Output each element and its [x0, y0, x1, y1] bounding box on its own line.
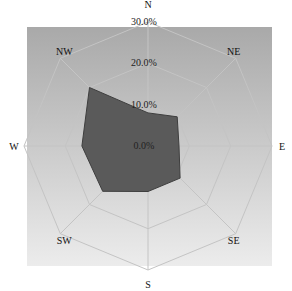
radial-tick-label: 10.0%: [131, 99, 157, 110]
direction-label-nw: NW: [56, 46, 73, 57]
direction-label-n: N: [144, 0, 151, 10]
direction-label-s: S: [145, 279, 151, 290]
wind-rose-chart: 0.0%10.0%20.0%30.0% NNEESESSWWNW: [0, 0, 292, 291]
direction-label-se: SE: [228, 235, 240, 246]
direction-label-sw: SW: [57, 235, 73, 246]
direction-label-w: W: [9, 141, 19, 152]
direction-label-ne: NE: [227, 46, 240, 57]
radial-tick-label: 0.0%: [134, 140, 155, 151]
radial-tick-label: 30.0%: [131, 16, 157, 27]
direction-label-e: E: [279, 141, 285, 152]
radial-tick-label: 20.0%: [131, 57, 157, 68]
